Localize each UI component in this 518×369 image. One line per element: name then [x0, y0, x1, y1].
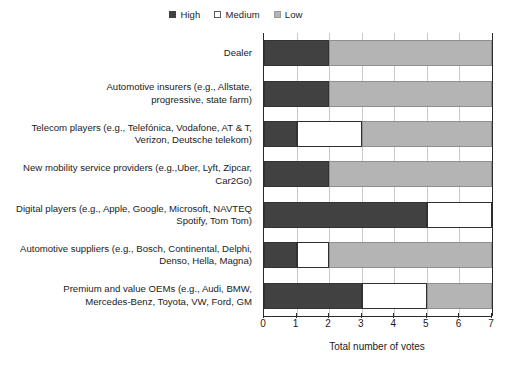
stacked-bar[interactable] [264, 283, 492, 309]
x-tick-label: 6 [456, 318, 462, 329]
legend-label-medium: Medium [225, 9, 259, 20]
category-label: New mobility service providers (e.g.,Ube… [6, 162, 258, 187]
bar-segment-high[interactable] [264, 283, 362, 309]
bar-segment-medium[interactable] [297, 242, 330, 268]
bar-segment-medium[interactable] [427, 202, 492, 228]
bar-row [264, 276, 492, 316]
bar-segment-low[interactable] [329, 242, 492, 268]
x-tick-label: 3 [358, 318, 364, 329]
bar-row [264, 114, 492, 154]
category-label: Telecom players (e.g., Telefónica, Vodaf… [6, 122, 258, 147]
bar-segment-high[interactable] [264, 161, 329, 187]
category-label: Premium and value OEMs (e.g., Audi, BMW,… [6, 283, 258, 308]
bar-row [264, 154, 492, 194]
legend-label-low: Low [285, 9, 303, 20]
x-tick-label: 1 [293, 318, 299, 329]
legend-item-low: Low [274, 9, 303, 20]
stacked-bar[interactable] [264, 202, 492, 228]
bar-segment-high[interactable] [264, 81, 329, 107]
legend-item-high: High [169, 9, 200, 20]
legend-item-medium: Medium [214, 9, 259, 20]
stacked-bar[interactable] [264, 81, 492, 107]
bar-segment-high[interactable] [264, 202, 427, 228]
x-tick-label: 0 [260, 318, 266, 329]
stacked-bar[interactable] [264, 242, 492, 268]
bar-segment-medium[interactable] [297, 121, 362, 147]
x-tick-label: 7 [488, 318, 494, 329]
category-label: Automotive insurers (e.g., Allstate, pro… [6, 81, 258, 106]
bar-segment-medium[interactable] [362, 283, 427, 309]
stacked-bar-chart: High Medium Low DealerAutomotive insurer… [0, 0, 518, 369]
x-tick-label: 5 [423, 318, 429, 329]
stacked-bar[interactable] [264, 121, 492, 147]
bar-segment-low[interactable] [329, 40, 492, 66]
category-label: Digital players (e.g., Apple, Google, Mi… [6, 203, 258, 228]
stacked-bar[interactable] [264, 40, 492, 66]
bar-segment-high[interactable] [264, 121, 297, 147]
bar-row [264, 235, 492, 275]
plot-area [263, 33, 492, 317]
bar-row [264, 33, 492, 73]
x-axis-title: Total number of votes [263, 341, 491, 352]
gridline [492, 33, 493, 316]
category-axis-labels: DealerAutomotive insurers (e.g., Allstat… [0, 33, 258, 316]
category-label: Dealer [6, 47, 258, 59]
low-swatch-icon [274, 11, 281, 18]
x-axis-ticks: 01234567 [263, 318, 491, 334]
x-tick-label: 2 [325, 318, 331, 329]
medium-swatch-icon [214, 11, 221, 18]
bar-segment-low[interactable] [362, 121, 492, 147]
bar-row [264, 73, 492, 113]
bar-segment-low[interactable] [427, 283, 492, 309]
stacked-bar[interactable] [264, 161, 492, 187]
x-tick-label: 4 [391, 318, 397, 329]
bar-segment-low[interactable] [329, 81, 492, 107]
category-label: Automotive suppliers (e.g., Bosch, Conti… [6, 243, 258, 268]
chart-legend: High Medium Low [0, 9, 518, 20]
bar-rows [264, 33, 492, 316]
bar-segment-high[interactable] [264, 40, 329, 66]
bar-segment-low[interactable] [329, 161, 492, 187]
high-swatch-icon [169, 11, 176, 18]
bar-row [264, 195, 492, 235]
legend-label-high: High [180, 9, 200, 20]
bar-segment-high[interactable] [264, 242, 297, 268]
